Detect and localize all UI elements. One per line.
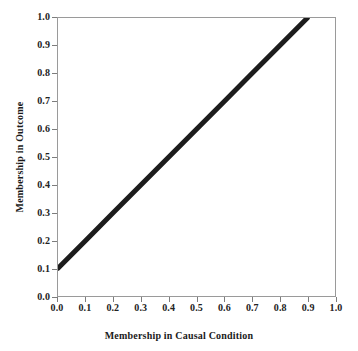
x-tick-label: 1.0: [316, 303, 356, 313]
y-tick-mark: [52, 73, 57, 74]
y-tick-mark: [52, 129, 57, 130]
data-series-layer: [58, 18, 335, 296]
y-axis-title: Membership in Outcome: [14, 17, 28, 297]
x-axis-title: Membership in Causal Condition: [0, 330, 358, 341]
y-tick-mark: [52, 17, 57, 18]
y-tick-mark: [52, 45, 57, 46]
y-tick-mark: [52, 241, 57, 242]
y-tick-mark: [52, 157, 57, 158]
y-tick-mark: [52, 101, 57, 102]
data-series-line: [58, 18, 307, 268]
chart-figure: 0.00.10.20.30.40.50.60.70.80.91.0 0.00.1…: [0, 0, 358, 351]
y-tick-mark: [52, 269, 57, 270]
y-tick-mark: [52, 185, 57, 186]
y-tick-mark: [52, 213, 57, 214]
plot-area: [57, 17, 336, 297]
